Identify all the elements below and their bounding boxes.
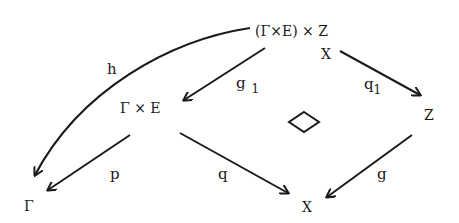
arrows-layer [0, 0, 459, 223]
label-q: q [218, 167, 228, 182]
label-h: h [107, 62, 117, 77]
arrow-q [180, 133, 288, 193]
diamond-symbol [289, 112, 319, 132]
node-gamma: Γ [24, 199, 34, 213]
node-top: (Γ×E) × Z [255, 24, 328, 38]
label-p: p [110, 167, 120, 182]
arrow-g [327, 135, 412, 197]
label-q1: q1 [364, 77, 381, 92]
node-top-x: X [321, 47, 331, 61]
label-g: g [377, 167, 387, 182]
node-z: Z [424, 108, 434, 122]
node-x: X [302, 200, 312, 214]
label-g1: g1 [236, 76, 259, 91]
node-gamma-e: Γ × E [120, 101, 161, 115]
